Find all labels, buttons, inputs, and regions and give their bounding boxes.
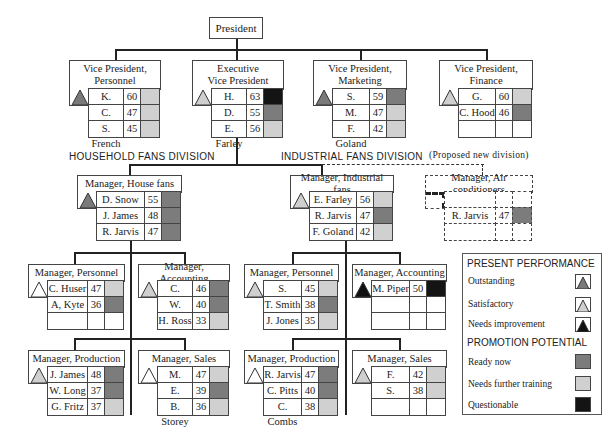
person-age: [495, 120, 513, 138]
connector-line: [292, 338, 294, 350]
connector-line: [184, 338, 186, 350]
person-row: [459, 121, 532, 138]
person-row: F. Goland42: [310, 224, 393, 241]
none_outline-performance-icon: [28, 281, 48, 298]
person-row: [372, 313, 446, 330]
connector-line: [399, 338, 401, 350]
position-title-box: ExecutiveVice President: [192, 60, 284, 90]
person-age: 35: [301, 312, 319, 330]
person-row: E. Farley56: [212, 121, 283, 138]
none-potential-swatch: [426, 312, 446, 330]
person-name: [371, 398, 410, 416]
proposed-connector: [322, 164, 484, 165]
position-title-box: Vice President,Marketing: [313, 60, 407, 90]
person-row: [372, 399, 446, 416]
position-title: Manager, Production: [247, 353, 335, 365]
person-age: 42: [356, 223, 374, 241]
needs-training-swatch-icon: [575, 376, 591, 391]
outstanding-performance-icon: [77, 192, 97, 209]
position-title: Manager, House fans: [85, 178, 174, 190]
questionable-swatch-icon: [575, 397, 591, 412]
person-row: [445, 224, 532, 241]
satisfactory-performance-icon: [28, 367, 48, 384]
person-age: [495, 223, 513, 241]
connector-line: [115, 49, 488, 51]
person-age: 33: [192, 312, 210, 330]
connector-line: [345, 240, 347, 415]
position-title: Manager, Sales: [152, 353, 216, 365]
connector-line: [129, 164, 131, 175]
position-title-box: Vice President,Finance: [439, 60, 533, 90]
legend-outstanding-label: Outstanding: [468, 276, 514, 286]
person-row: R. Jarvis47: [97, 224, 181, 241]
legend: PRESENT PERFORMANCE Outstanding Satisfac…: [462, 253, 602, 415]
president-title: President: [216, 22, 257, 34]
position-title: Vice President,: [454, 63, 518, 75]
needs_improvement-performance-icon: [352, 281, 372, 298]
satisfactory-performance-icon: [192, 89, 212, 106]
person-row: G. Fritz37: [48, 399, 124, 416]
legend-performance-header: PRESENT PERFORMANCE: [467, 258, 595, 269]
person-age: [87, 312, 105, 330]
person-age: 47: [144, 223, 162, 241]
connector-line: [292, 338, 400, 340]
none-potential-swatch: [512, 223, 532, 241]
person-name: H. Ross: [157, 312, 193, 330]
person-name: [371, 312, 410, 330]
person-row: [48, 313, 124, 330]
connector-line: [130, 240, 132, 415]
connector-line: [292, 252, 400, 254]
person-name: J. Jones: [263, 312, 302, 330]
legend-questionable-label: Questionable: [468, 400, 518, 410]
person-row: J. Jones35: [264, 313, 338, 330]
person-row: C. Combs38: [264, 399, 338, 416]
outstanding-performance-icon: [69, 89, 89, 106]
person-row: B. Storey36: [158, 399, 229, 416]
person-row: F. Goland42: [333, 121, 406, 138]
needs-training-potential-swatch: [263, 120, 283, 138]
position-title: Manager, Accounting: [354, 267, 445, 279]
needs-training-potential-swatch: [140, 120, 160, 138]
president-box: President: [209, 17, 263, 39]
satisfactory-performance-icon: [244, 281, 264, 298]
legend-needs-improvement-label: Needs improvement: [468, 319, 545, 329]
needs-training-potential-swatch: [318, 312, 338, 330]
proposed-division-label: (Proposed new division): [429, 150, 529, 160]
person-age: [409, 312, 427, 330]
satisfactory-performance-icon: [352, 367, 372, 384]
position-title-line2: Marketing: [338, 75, 382, 87]
outstanding-triangle-icon: [575, 274, 591, 289]
none-potential-swatch: [104, 312, 124, 330]
position-title-line2: Vice President: [208, 75, 269, 87]
outstanding-performance-icon: [313, 89, 333, 106]
satisfactory-performance-icon: [439, 89, 459, 106]
empty-performance-slot: [425, 192, 445, 209]
position-title: Manager, Sales: [367, 353, 431, 365]
position-title-line2: Finance: [469, 75, 502, 87]
position-title: Vice President,: [328, 63, 392, 75]
needs-training-potential-swatch: [104, 398, 124, 416]
none_outline-performance-icon: [138, 367, 158, 384]
person-row: H. Ross33: [158, 313, 229, 330]
satisfactory-triangle-icon: [575, 297, 591, 312]
needs-training-potential-swatch: [373, 223, 393, 241]
position-title: Vice President,: [83, 63, 147, 75]
person-name: G. Fritz: [47, 398, 88, 416]
needs-training-potential-swatch: [209, 312, 229, 330]
person-age: 36: [192, 398, 210, 416]
position-title-line2: Personnel: [94, 75, 135, 87]
ready-now-potential-swatch: [161, 223, 181, 241]
person-name: S. French: [88, 120, 124, 138]
person-name: [444, 223, 496, 241]
position-title: Manager, Personnel: [250, 267, 334, 279]
needs-training-potential-swatch: [318, 398, 338, 416]
position-title: Executive: [217, 63, 259, 75]
connector-line: [74, 252, 185, 254]
connector-line: [74, 252, 76, 264]
person-name: [47, 312, 88, 330]
legend-needs-training-label: Needs further training: [468, 379, 552, 389]
person-name: C. Combs: [263, 398, 302, 416]
position-title: Manager, Production: [32, 353, 120, 365]
ready-now-swatch-icon: [575, 354, 591, 369]
person-age: 37: [87, 398, 105, 416]
